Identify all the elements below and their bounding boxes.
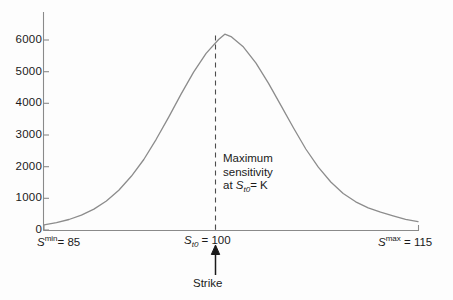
x-tick-label-st0: St0 = 100 [184, 234, 231, 249]
x-tick-label-st0-symbol: S [184, 234, 192, 246]
x-tick-label-st0-sub: t0 [192, 240, 199, 249]
y-tick-label-3000: 3000 [0, 128, 42, 140]
x-axis-ticks [44, 225, 419, 231]
x-tick-label-smax-value: = 115 [404, 236, 432, 248]
y-tick-label-6000: 6000 [0, 33, 42, 45]
max-sensitivity-annotation: Maximum sensitivity at St0= K [223, 152, 273, 197]
y-tick-label-1000: 1000 [0, 191, 42, 203]
y-tick-label-0: 0 [0, 223, 42, 235]
max-sensitivity-line-1: Maximum [223, 152, 273, 166]
y-axis-ticks [44, 40, 50, 230]
x-tick-label-smin: Smin= 85 [37, 234, 80, 248]
y-tick-label-2000: 2000 [0, 160, 42, 172]
max-sensitivity-eq: = K [250, 179, 268, 191]
chart-figure: 6000 5000 4000 3000 2000 1000 0 Smin= 85… [0, 0, 453, 300]
max-sensitivity-line-3: at St0= K [223, 179, 273, 197]
max-sensitivity-line-2: sensitivity [223, 166, 273, 180]
x-tick-label-smin-sup: min [45, 234, 58, 243]
x-tick-label-smax-symbol: S [378, 236, 386, 248]
max-sensitivity-prefix: at [223, 179, 236, 191]
y-tick-label-4000: 4000 [0, 96, 42, 108]
y-tick-label-5000: 5000 [0, 65, 42, 77]
strike-arrow-icon [211, 245, 219, 275]
chart-plot-area [0, 0, 453, 300]
x-tick-label-smin-symbol: S [37, 236, 45, 248]
x-tick-label-smin-value: = 85 [58, 236, 81, 248]
x-tick-label-smax: Smax = 115 [378, 234, 432, 248]
strike-label: Strike [193, 277, 222, 289]
x-tick-label-smax-sup: max [386, 234, 401, 243]
x-tick-label-st0-value: = 100 [202, 234, 231, 246]
